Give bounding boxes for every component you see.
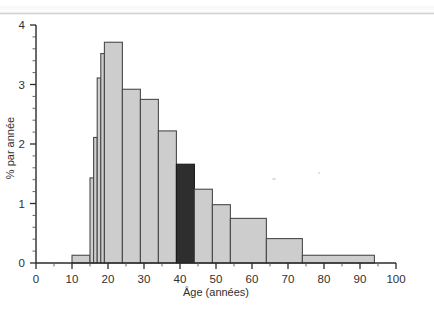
histogram-bar: [122, 89, 140, 263]
x-tick-label: 100: [386, 273, 405, 285]
x-tick-label: 40: [174, 273, 187, 285]
y-tick-label: 0: [19, 257, 25, 269]
histogram-bar: [158, 131, 176, 263]
x-tick-label: 10: [66, 273, 79, 285]
histogram-bar: [140, 99, 158, 263]
histogram-figure: 010203040506070809010001234 Âge (années)…: [0, 0, 434, 310]
x-tick-label: 60: [246, 273, 259, 285]
histogram-bar: [266, 239, 302, 263]
y-tick-label: 3: [19, 79, 25, 91]
histogram-bar: [72, 255, 90, 263]
x-tick-label: 70: [282, 273, 295, 285]
scan-artifact-line: [0, 12, 434, 15]
bars-layer: [72, 42, 374, 263]
histogram-bar: [212, 205, 230, 263]
y-tick-label: 4: [19, 19, 26, 31]
x-tick-label: 80: [318, 273, 331, 285]
y-axis-title: % par année: [4, 117, 16, 179]
x-tick-label: 0: [33, 273, 39, 285]
x-tick-label: 50: [210, 273, 223, 285]
y-tick-label: 1: [19, 198, 25, 210]
histogram-bar: [230, 218, 266, 263]
x-tick-label: 90: [354, 273, 367, 285]
scan-speck: [272, 178, 276, 180]
histogram-bar: [104, 42, 122, 263]
histogram-bar: [302, 255, 374, 263]
histogram-bar-highlighted: [176, 164, 194, 263]
x-tick-label: 30: [138, 273, 151, 285]
x-tick-label: 20: [102, 273, 115, 285]
y-tick-label: 2: [19, 138, 25, 150]
histogram-plot: 010203040506070809010001234 Âge (années)…: [0, 0, 434, 310]
scan-speck: [318, 172, 320, 174]
x-axis-title: Âge (années): [183, 286, 249, 298]
histogram-bar: [194, 189, 212, 263]
